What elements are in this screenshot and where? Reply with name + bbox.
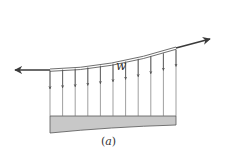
load-label-w: w [116, 60, 126, 72]
deck-slab [50, 116, 176, 133]
hanger-lines [50, 49, 176, 116]
diagram-canvas [0, 0, 243, 157]
right-tension-arrow [176, 39, 210, 48]
figure-caption: (a) [101, 136, 116, 147]
caption-close: ) [112, 135, 116, 148]
